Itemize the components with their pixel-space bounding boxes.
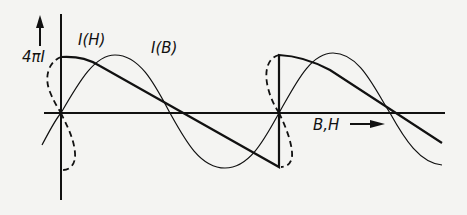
magnetization-diagram: 4πI I(H) I(B) B,H [0, 0, 467, 215]
dashed-loop-right-upper [266, 55, 279, 113]
y-axis-label: 4πI [22, 48, 46, 66]
x-axis-label: B,H [313, 116, 339, 134]
dashed-loop-right-lower [279, 113, 292, 167]
y-axis-arrow-icon [36, 15, 44, 46]
curve-i-h-label: I(H) [78, 31, 105, 49]
x-axis-arrow-icon [350, 120, 385, 128]
curve-i-b [42, 53, 442, 168]
curve-i-b-label: I(B) [151, 39, 177, 57]
dashed-loop-left-lower [61, 113, 75, 170]
curve-i-h [61, 55, 442, 167]
dashed-loop-left-upper [47, 57, 61, 113]
